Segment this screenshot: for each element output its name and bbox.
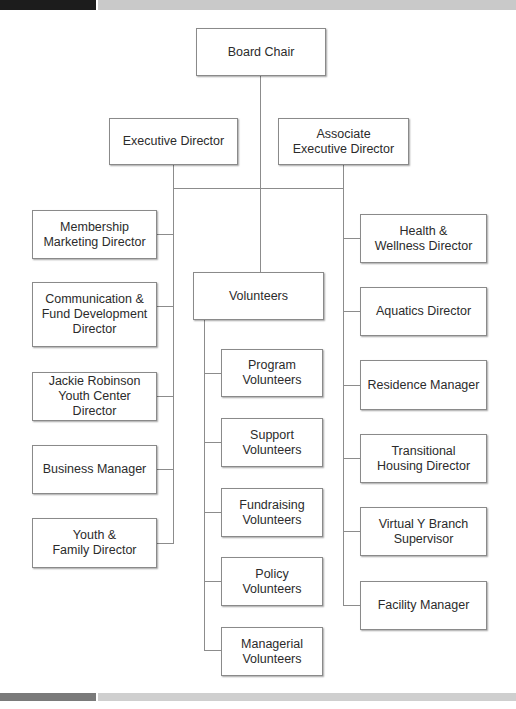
node-communication-fund-development-director: Communication & Fund Development Directo… — [32, 282, 157, 347]
node-transitional-housing-director: Transitional Housing Director — [360, 434, 487, 483]
connector-volunteers-spine — [204, 320, 205, 651]
node-associate-executive-director: Associate Executive Director — [278, 118, 409, 165]
connector-tick — [157, 543, 173, 544]
connector-tick — [343, 311, 360, 312]
node-support-volunteers: Support Volunteers — [221, 418, 323, 467]
connector-tick — [204, 581, 221, 582]
connector-tick — [343, 531, 360, 532]
node-facility-manager: Facility Manager — [360, 581, 487, 630]
header-band-dark — [0, 0, 96, 10]
connector-tick — [157, 306, 173, 307]
connector-tick — [157, 469, 173, 470]
node-board-chair: Board Chair — [196, 28, 326, 76]
connector-tick — [204, 442, 221, 443]
connector-tick — [157, 396, 173, 397]
connector-root-down — [260, 76, 261, 272]
node-volunteers: Volunteers — [193, 272, 324, 320]
node-jackie-robinson-youth-center-director: Jackie Robinson Youth Center Director — [32, 372, 157, 421]
node-residence-manager: Residence Manager — [360, 360, 487, 410]
connector-tick — [343, 385, 360, 386]
connector-tick — [343, 238, 360, 239]
connector-tick — [343, 605, 360, 606]
connector-tick — [343, 458, 360, 459]
node-health-wellness-director: Health & Wellness Director — [360, 214, 487, 263]
connector-tick — [204, 373, 221, 374]
footer-band-light — [98, 693, 516, 701]
node-program-volunteers: Program Volunteers — [221, 349, 323, 397]
node-fundraising-volunteers: Fundraising Volunteers — [221, 488, 323, 537]
footer-band-dark — [0, 693, 96, 701]
connector-exec-down — [173, 165, 174, 544]
node-virtual-y-branch-supervisor: Virtual Y Branch Supervisor — [360, 507, 487, 556]
header-band-light — [98, 0, 516, 10]
node-aquatics-director: Aquatics Director — [360, 287, 487, 336]
node-business-manager: Business Manager — [32, 445, 157, 494]
node-executive-director: Executive Director — [109, 118, 238, 165]
node-youth-family-director: Youth & Family Director — [32, 518, 157, 568]
connector-tick — [204, 650, 221, 651]
connector-tick — [204, 512, 221, 513]
node-policy-volunteers: Policy Volunteers — [221, 557, 323, 606]
connector-exec-bar — [173, 188, 344, 189]
node-membership-marketing-director: Membership Marketing Director — [32, 210, 157, 259]
connector-tick — [157, 234, 173, 235]
node-managerial-volunteers: Managerial Volunteers — [221, 627, 323, 676]
